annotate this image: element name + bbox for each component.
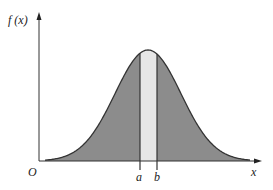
density-plot (0, 0, 273, 190)
y-axis-label: f (x) (8, 14, 28, 26)
diagram: f (x) O x a b (0, 0, 273, 190)
label-b: b (154, 171, 160, 183)
x-axis-arrow-icon (254, 159, 262, 164)
y-axis-arrow-icon (37, 12, 42, 20)
label-a: a (136, 171, 142, 183)
origin-label: O (28, 166, 37, 178)
interval-a-b-area (140, 50, 157, 161)
x-axis-label: x (251, 166, 256, 178)
